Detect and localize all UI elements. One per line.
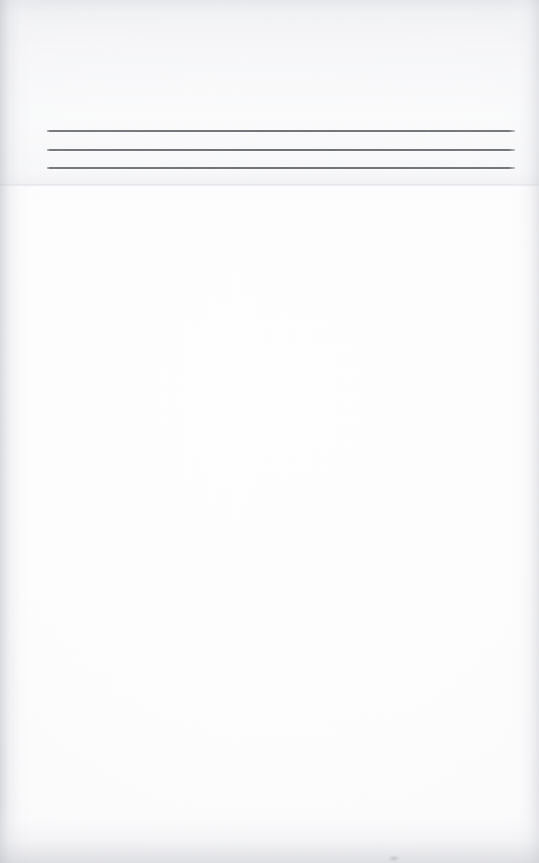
page-body-blank-area [24, 190, 515, 840]
horizontal-rule-2 [47, 149, 515, 151]
horizontal-rule-3 [47, 167, 515, 169]
scanned-document-page [0, 0, 539, 863]
scan-smudge-mark [388, 855, 400, 862]
horizontal-rule-1 [47, 130, 515, 132]
horizontal-rules-group [0, 0, 539, 186]
